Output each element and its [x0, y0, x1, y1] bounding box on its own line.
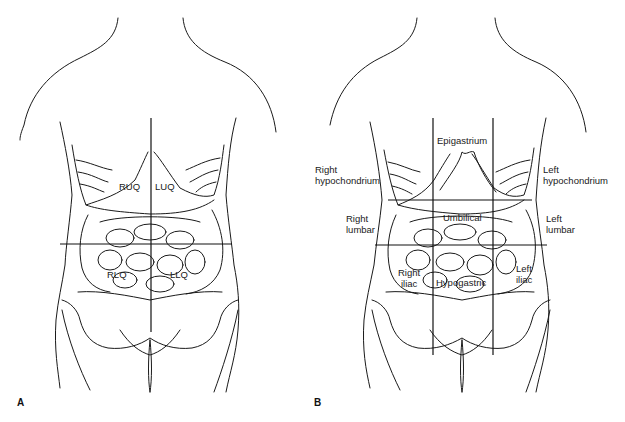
label-ruq: RUQ — [119, 181, 140, 192]
label-luq: LUQ — [155, 181, 175, 192]
label-hypogastric: Hypogastric — [436, 277, 486, 288]
figure-letter-b: B — [314, 397, 321, 408]
label-left-iliac-line1: Left — [516, 263, 532, 274]
torso-illustration-a — [0, 0, 310, 422]
label-rlq: RLQ — [107, 269, 127, 280]
figure-b-regions: Epigastrium Right hypochondrium Left hyp… — [300, 0, 625, 422]
label-umbilical: Umbilical — [443, 212, 482, 223]
label-right-hypochondrium-line2: hypochondrium — [315, 175, 380, 186]
torso-illustration-b — [300, 0, 625, 422]
label-right-lumbar-line1: Right — [346, 213, 368, 224]
label-left-lumbar-line1: Left — [546, 213, 562, 224]
label-right-iliac-line1: Right — [398, 267, 420, 278]
figure-letter-a: A — [17, 397, 24, 408]
label-right-lumbar-line2: lumbar — [346, 224, 375, 235]
label-epigastrium: Epigastrium — [437, 135, 487, 146]
label-llq: LLQ — [170, 269, 188, 280]
label-right-hypochondrium-line1: Right — [315, 164, 337, 175]
figure-a-quadrants: RUQ LUQ RLQ LLQ A — [0, 0, 310, 422]
label-left-iliac-line2: iliac — [516, 274, 532, 285]
label-right-iliac-line2: iliac — [401, 278, 417, 289]
label-left-lumbar-line2: lumbar — [546, 224, 575, 235]
label-left-hypochondrium-line1: Left — [543, 164, 559, 175]
label-left-hypochondrium-line2: hypochondrium — [543, 175, 608, 186]
